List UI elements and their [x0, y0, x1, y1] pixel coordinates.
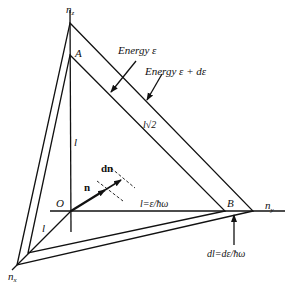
origin-label: O — [56, 197, 64, 209]
energy-shell-diagram: nz ny nx O A B Energy ε Energy ε + dε l√… — [0, 0, 298, 286]
energy-outer-arrow — [147, 74, 162, 100]
energy-outer-label: Energy ε + dε — [144, 65, 207, 77]
nx-label: nx — [8, 270, 18, 284]
dl-label: dl=dε/ħω — [207, 248, 245, 259]
dn-dash-line-1 — [97, 181, 123, 201]
energy-inner-label: Energy ε — [117, 44, 157, 56]
vector-dn-label: dn — [101, 162, 113, 174]
dn-dash-line-2 — [111, 168, 135, 188]
inner-triangle — [28, 55, 225, 253]
vertex-a-label: A — [74, 47, 82, 59]
ny-label: ny — [265, 199, 275, 214]
vertical-l-label: l — [74, 136, 77, 148]
vertex-b-label: B — [227, 197, 234, 209]
horizontal-l-label: l=ε/ħω — [140, 198, 168, 209]
nx-axis — [12, 211, 71, 270]
diagonal-l-label: l — [42, 222, 45, 234]
nz-label: nz — [66, 3, 75, 17]
hypotenuse-label: l√2 — [143, 119, 156, 130]
vector-n-label: n — [84, 181, 90, 193]
nz-axis — [70, 10, 71, 232]
vector-n-arrow — [71, 190, 105, 211]
